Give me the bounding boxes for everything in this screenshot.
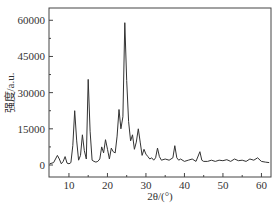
x-axis-label: 2θ/(°): [147, 190, 173, 203]
x-tick-label: 60: [256, 179, 268, 191]
xrd-line: [50, 23, 270, 164]
y-axis-label: 强度/a.u.: [3, 72, 16, 113]
xrd-chart: 015000300004500060000 102030405060 2θ/(°…: [0, 0, 278, 211]
y-tick-label: 30000: [18, 87, 46, 99]
x-tick-label: 20: [102, 179, 114, 191]
x-tick-label: 10: [63, 179, 75, 191]
x-tick-label: 50: [217, 179, 229, 191]
y-tick-label: 0: [40, 159, 46, 171]
data-series: [50, 23, 270, 164]
plot-frame: [49, 8, 271, 177]
y-tick-label: 60000: [18, 14, 46, 26]
x-tick-label: 40: [179, 179, 191, 191]
y-tick-label: 15000: [18, 123, 46, 135]
x-axis-ticks: 102030405060: [63, 173, 267, 191]
y-tick-label: 45000: [18, 50, 46, 62]
y-axis-ticks: 015000300004500060000: [18, 14, 54, 171]
